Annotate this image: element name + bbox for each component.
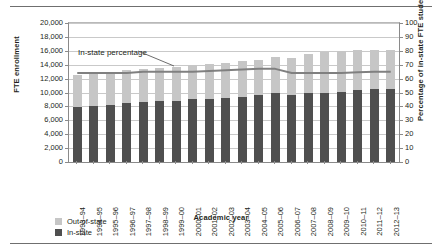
x-axis-tick <box>208 161 209 164</box>
x-axis-tick <box>340 161 341 164</box>
legend-swatch-out-of-state <box>55 218 62 225</box>
x-axis-tick-label: 1996–97 <box>129 207 137 236</box>
x-axis-tick <box>390 161 391 164</box>
y-axis-right-tick <box>399 23 403 24</box>
y-axis-left-tick-label: 14,000 <box>40 61 63 69</box>
y-axis-left-title: FTE enrollment <box>12 17 21 113</box>
y-axis-right-tick <box>399 148 403 149</box>
x-axis-tick-label: 1997–98 <box>145 207 153 236</box>
x-axis-tick <box>241 161 242 164</box>
x-axis-tick-label: 2004–05 <box>261 207 269 236</box>
x-axis-tick <box>76 161 77 164</box>
x-axis-tick-label: 1998–99 <box>162 207 170 236</box>
x-axis-tick-label: 2008–09 <box>327 207 335 236</box>
x-axis-tick <box>192 161 193 164</box>
y-axis-left-tick-label: 12,000 <box>40 75 63 83</box>
x-axis-tick <box>109 161 110 164</box>
y-axis-left-tick-label: 6,000 <box>44 116 63 124</box>
x-axis-tick-label: 2000–01 <box>195 207 203 236</box>
x-axis-tick <box>126 161 127 164</box>
y-axis-left-tick-label: 20,000 <box>40 19 63 27</box>
legend-label-out-of-state: Out-of-state <box>67 218 107 226</box>
chart-legend: Out-of-state In-state <box>55 216 107 238</box>
x-axis-tick <box>159 161 160 164</box>
x-axis-tick-label: 1995–96 <box>112 207 120 236</box>
y-axis-right-tick-label: 100 <box>405 19 418 27</box>
y-axis-left-tick-label: 16,000 <box>40 47 63 55</box>
y-axis-left-tick-label: 8,000 <box>44 102 63 110</box>
y-axis-right-tick <box>399 162 403 163</box>
x-axis-tick-label: 2006–07 <box>294 207 302 236</box>
x-axis-tick-labels: 1993–941994–951995–961996–971997–981998–… <box>68 163 398 211</box>
y-axis-right-tick-label: 40 <box>405 102 413 110</box>
y-axis-left-tick-label: 4,000 <box>44 130 63 138</box>
y-axis-right-tick-label: 30 <box>405 116 413 124</box>
top-divider-rule <box>10 6 432 7</box>
y-axis-right-tick-label: 70 <box>405 61 413 69</box>
x-axis-tick <box>258 161 259 164</box>
y-axis-right-tick-label: 60 <box>405 75 413 83</box>
y-axis-right-tick <box>399 65 403 66</box>
y-axis-right-tick-label: 80 <box>405 47 413 55</box>
x-axis-tick <box>357 161 358 164</box>
x-axis-tick-label: 2010–11 <box>360 207 368 236</box>
x-axis-tick-label: 2011–12 <box>376 207 384 236</box>
y-axis-right-tick <box>399 93 403 94</box>
plot-area: 002,000104,000206,000308,0004010,0005012… <box>68 22 400 162</box>
y-axis-right-tick <box>399 106 403 107</box>
x-axis-tick <box>142 161 143 164</box>
x-axis-tick <box>373 161 374 164</box>
y-axis-left-tick-label: 10,000 <box>40 89 63 97</box>
x-axis-tick-label: 2002–03 <box>228 207 236 236</box>
y-axis-right-tick <box>399 79 403 80</box>
x-axis-tick <box>225 161 226 164</box>
line-series-in-state-percentage <box>69 23 399 162</box>
x-axis-tick <box>274 161 275 164</box>
legend-item-in-state: In-state <box>55 227 107 238</box>
y-axis-left-tick-label: 18,000 <box>40 33 63 41</box>
x-axis-tick-label: 2001–02 <box>211 207 219 236</box>
y-axis-right-tick <box>399 134 403 135</box>
y-axis-right-tick <box>399 120 403 121</box>
x-axis-tick <box>324 161 325 164</box>
x-axis-tick-label: 2009–10 <box>343 207 351 236</box>
legend-item-out-of-state: Out-of-state <box>55 216 107 227</box>
x-axis-tick-label: 2005–06 <box>277 207 285 236</box>
x-axis-tick <box>93 161 94 164</box>
y-axis-right-tick-label: 0 <box>405 158 409 166</box>
y-axis-right-tick-label: 50 <box>405 89 413 97</box>
y-axis-right-tick <box>399 37 403 38</box>
y-axis-right-tick-label: 90 <box>405 33 413 41</box>
x-axis-tick <box>175 161 176 164</box>
annotation-leader-line <box>138 51 178 69</box>
bottom-divider-rule <box>10 243 432 244</box>
x-axis-tick-label: 1999–00 <box>178 207 186 236</box>
x-axis-tick-label: 2012–13 <box>393 207 401 236</box>
y-axis-left-tick-label: 2,000 <box>44 144 63 152</box>
y-axis-left-tick-label: 0 <box>59 158 63 166</box>
x-axis-tick <box>307 161 308 164</box>
y-axis-right-tick <box>399 51 403 52</box>
legend-label-in-state: In-state <box>67 229 92 237</box>
line-series-annotation-label: In-state percentage <box>78 48 147 57</box>
legend-swatch-in-state <box>55 229 62 236</box>
x-axis-tick-label: 2003–04 <box>244 207 252 236</box>
x-axis-tick-label: 2007–08 <box>310 207 318 236</box>
y-axis-right-tick-label: 10 <box>405 144 413 152</box>
y-axis-right-tick-label: 20 <box>405 130 413 138</box>
x-axis-tick <box>291 161 292 164</box>
figure-container: FTE enrollment Percentage of in-state FT… <box>0 0 442 249</box>
